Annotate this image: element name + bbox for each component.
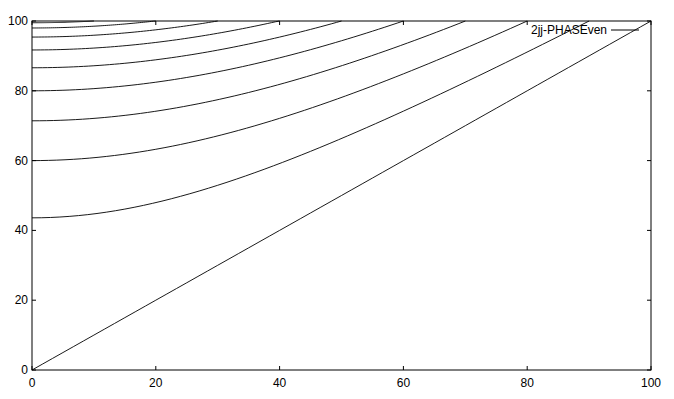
y-tick-label: 60 xyxy=(15,154,29,168)
data-curve xyxy=(32,21,527,161)
x-tick-label: 80 xyxy=(521,376,535,390)
data-curve xyxy=(32,21,342,68)
data-curve xyxy=(32,21,403,91)
y-tick-label: 20 xyxy=(15,293,29,307)
line-chart: 0204060801000204060801002jj-PHASEven xyxy=(0,0,674,399)
x-tick-label: 100 xyxy=(641,376,661,390)
data-curve xyxy=(32,21,156,28)
data-curve xyxy=(32,21,465,121)
data-curve xyxy=(32,21,589,218)
legend-text: 2jj-PHASEven xyxy=(531,23,607,37)
y-tick-label: 0 xyxy=(21,363,28,377)
x-tick-label: 40 xyxy=(273,376,287,390)
y-tick-label: 80 xyxy=(15,84,29,98)
chart-container: 0204060801000204060801002jj-PHASEven 2jj… xyxy=(0,0,674,399)
x-tick-label: 60 xyxy=(397,376,411,390)
x-tick-label: 0 xyxy=(29,376,36,390)
y-tick-label: 100 xyxy=(8,14,28,28)
data-curve xyxy=(32,21,651,370)
data-curve xyxy=(32,21,218,37)
x-tick-label: 20 xyxy=(149,376,163,390)
y-tick-label: 40 xyxy=(15,223,29,237)
